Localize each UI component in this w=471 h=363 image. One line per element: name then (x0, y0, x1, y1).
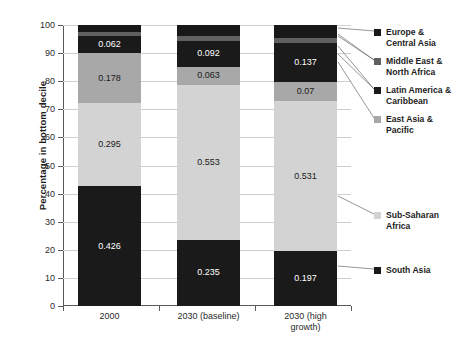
bar-segment-europe-central-asia[interactable] (78, 25, 141, 32)
legend-item-latin-america-[interactable]: Latin America & Caribbean (374, 85, 451, 106)
x-axis-label-1: 2030 (baseline) (166, 311, 252, 322)
y-tick-30 (58, 222, 63, 223)
legend-item-sub-saharan[interactable]: Sub-Saharan Africa (374, 210, 439, 231)
x-tick-3 (351, 306, 352, 311)
bar-segment-sub-saharan-africa[interactable]: 0.553 (177, 85, 240, 240)
bar-value-label: 0.197 (294, 274, 317, 283)
y-tick-100 (58, 25, 63, 26)
y-axis-label-30: 30 (45, 217, 55, 227)
y-axis-label-50: 50 (45, 161, 55, 171)
bar-segment-middle-east-north-africa[interactable] (78, 32, 141, 36)
bar-segment-south-asia[interactable]: 0.197 (274, 251, 337, 306)
legend: Europe & Central AsiaMiddle East & North… (368, 0, 471, 363)
bar-value-label: 0.092 (197, 49, 220, 58)
legend-label: Latin America & Caribbean (386, 85, 451, 106)
y-axis-label-20: 20 (45, 245, 55, 255)
x-axis-label-0: 2000 (67, 311, 153, 322)
x-tick-2 (255, 306, 256, 311)
y-axis-label-90: 90 (45, 48, 55, 58)
legend-item-east-asia-[interactable]: East Asia & Pacific (374, 114, 433, 135)
stacked-bar-chart: Percentage in bottom decile 010203040506… (0, 0, 471, 363)
y-tick-20 (58, 250, 63, 251)
y-axis-label-100: 100 (40, 20, 55, 30)
y-tick-10 (58, 278, 63, 279)
bar-segment-east-asia-pacific[interactable]: 0.063 (177, 67, 240, 85)
legend-swatch-icon (374, 87, 381, 94)
bar-2030-baseline-[interactable]: 0.2350.5530.0630.092 (177, 25, 240, 306)
bar-value-label: 0.426 (98, 242, 121, 251)
bar-segment-middle-east-north-africa[interactable] (177, 36, 240, 41)
y-axis-label-60: 60 (45, 132, 55, 142)
bar-2030-high-growth-[interactable]: 0.1970.5310.070.137 (274, 25, 337, 306)
bar-segment-east-asia-pacific[interactable]: 0.07 (274, 82, 337, 102)
legend-label: Sub-Saharan Africa (386, 210, 439, 231)
bar-value-label: 0.295 (98, 140, 121, 149)
legend-label: East Asia & Pacific (386, 114, 433, 135)
legend-swatch-icon (374, 116, 381, 123)
legend-swatch-icon (374, 267, 381, 274)
bar-segment-europe-central-asia[interactable] (274, 25, 337, 38)
y-tick-90 (58, 53, 63, 54)
bar-segment-sub-saharan-africa[interactable]: 0.531 (274, 101, 337, 250)
bar-segment-middle-east-north-africa[interactable] (274, 38, 337, 43)
legend-item-south-asia[interactable]: South Asia (374, 265, 431, 276)
bar-segment-south-asia[interactable]: 0.426 (78, 186, 141, 306)
legend-label: Europe & Central Asia (386, 27, 436, 48)
y-tick-60 (58, 137, 63, 138)
bar-segment-south-asia[interactable]: 0.235 (177, 240, 240, 306)
bar-value-label: 0.531 (294, 172, 317, 181)
bar-segment-latin-america-caribbean[interactable]: 0.062 (78, 36, 141, 53)
y-tick-40 (58, 194, 63, 195)
bar-segment-latin-america-caribbean[interactable]: 0.092 (177, 41, 240, 67)
bar-value-label: 0.062 (98, 40, 121, 49)
legend-swatch-icon (374, 212, 381, 219)
y-axis-label-70: 70 (45, 104, 55, 114)
y-axis-label-0: 0 (50, 301, 55, 311)
bar-value-label: 0.07 (297, 87, 315, 96)
legend-swatch-icon (374, 58, 381, 65)
x-axis-label-2: 2030 (high growth) (263, 311, 349, 333)
y-axis-label-80: 80 (45, 76, 55, 86)
y-axis-label-40: 40 (45, 189, 55, 199)
bar-segment-east-asia-pacific[interactable]: 0.178 (78, 53, 141, 103)
legend-swatch-icon (374, 29, 381, 36)
x-tick-0 (63, 306, 64, 311)
x-tick-1 (159, 306, 160, 311)
y-axis-label-10: 10 (45, 273, 55, 283)
bar-segment-sub-saharan-africa[interactable]: 0.295 (78, 103, 141, 186)
y-tick-80 (58, 81, 63, 82)
bar-value-label: 0.063 (197, 71, 220, 80)
plot-area: 0102030405060708090100 0.4260.2950.1780.… (63, 25, 351, 306)
y-tick-70 (58, 109, 63, 110)
bar-segment-latin-america-caribbean[interactable]: 0.137 (274, 43, 337, 81)
legend-item-europe-[interactable]: Europe & Central Asia (374, 27, 436, 48)
bar-segment-europe-central-asia[interactable] (177, 25, 240, 36)
legend-item-middle-east-[interactable]: Middle East & North Africa (374, 56, 442, 77)
legend-label: South Asia (386, 265, 431, 276)
bar-value-label: 0.235 (197, 268, 220, 277)
bar-value-label: 0.553 (197, 158, 220, 167)
legend-label: Middle East & North Africa (386, 56, 442, 77)
bar-value-label: 0.137 (294, 58, 317, 67)
bar-2000[interactable]: 0.4260.2950.1780.062 (78, 25, 141, 306)
y-tick-50 (58, 166, 63, 167)
bar-value-label: 0.178 (98, 74, 121, 83)
